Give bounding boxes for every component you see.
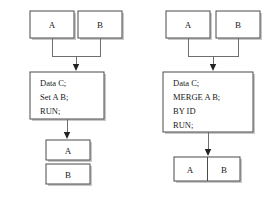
- left-input-label-a: A: [49, 20, 56, 30]
- left-output-label-b: B: [65, 170, 71, 180]
- right-step-line-3: BY ID: [173, 106, 196, 116]
- left-output-arrowhead: [64, 132, 70, 139]
- right-input-box-b: B: [216, 11, 262, 40]
- right-step-line-1: Data C;: [173, 78, 199, 88]
- left-step-line-1: Data C;: [40, 78, 66, 88]
- sas-dataflow-figure: A B Data C; Set A B;: [0, 0, 270, 199]
- left-step-box: Data C; Set A B; RUN;: [30, 72, 106, 121]
- right-step-line-4: RUN;: [173, 120, 193, 130]
- right-step-line-2: MERGE A B;: [173, 92, 220, 102]
- left-step-line-3: RUN;: [40, 106, 60, 116]
- left-input-label-b: B: [97, 20, 103, 30]
- right-input-connector: [188, 38, 238, 71]
- left-step-line-2: Set A B;: [40, 92, 68, 102]
- left-input-box-b: B: [78, 11, 124, 40]
- left-output-box-a: A: [46, 140, 92, 162]
- left-input-connector: [52, 38, 100, 71]
- left-output-box-b: B: [46, 164, 92, 186]
- right-flow: A B Data C; MERGE A B;: [163, 11, 262, 183]
- right-input-label-a: A: [185, 20, 192, 30]
- right-output-box-merged: A B: [174, 157, 242, 183]
- right-output-label-b: B: [221, 165, 227, 175]
- right-output-label-a: A: [187, 165, 194, 175]
- right-output-arrowhead: [205, 149, 211, 156]
- left-output-label-a: A: [65, 146, 72, 156]
- right-step-box: Data C; MERGE A B; BY ID RUN;: [163, 72, 255, 134]
- left-flow: A B Data C; Set A B;: [30, 11, 124, 186]
- right-input-box-a: A: [166, 11, 212, 40]
- right-input-label-b: B: [235, 20, 241, 30]
- right-output-connector: [205, 132, 211, 156]
- left-input-box-a: A: [30, 11, 76, 40]
- diagram-root: A B Data C; Set A B;: [0, 0, 270, 199]
- left-output-connector: [64, 119, 70, 139]
- right-input-arrowhead: [210, 64, 216, 71]
- left-input-arrowhead: [73, 64, 79, 71]
